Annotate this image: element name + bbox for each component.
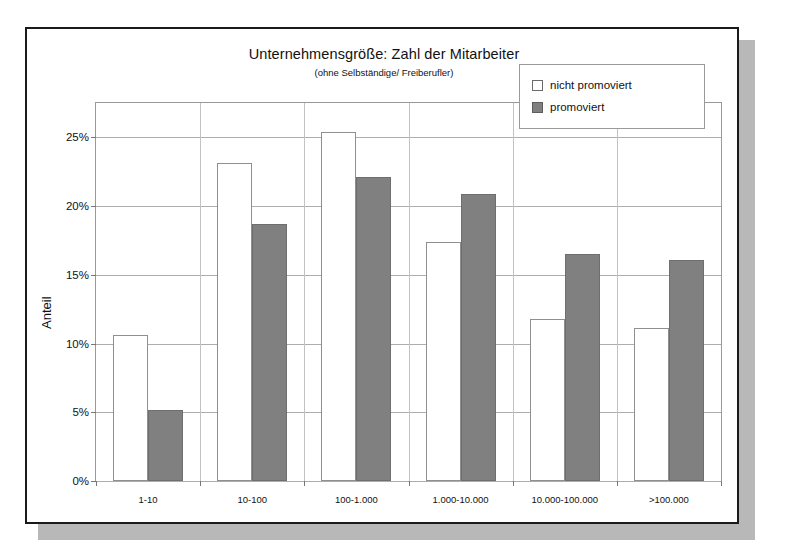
bar-nicht-promoviert <box>113 335 148 481</box>
y-tick-label: 0% <box>72 475 89 487</box>
bar-promoviert <box>148 410 183 481</box>
category-separator <box>617 103 618 481</box>
category-separator <box>304 103 305 481</box>
y-tick-mark <box>91 137 96 138</box>
chart-figure-frame: Unternehmensgröße: Zahl der Mitarbeiter … <box>25 27 739 524</box>
legend-label: nicht promoviert <box>550 79 632 91</box>
x-tick-mark <box>96 481 97 486</box>
plot-area: 0%5%10%15%20%25%1-1010-100100-1.0001.000… <box>95 102 722 482</box>
bar-nicht-promoviert <box>217 163 252 481</box>
legend-item-promoviert[interactable]: promoviert <box>532 96 694 118</box>
bar-promoviert <box>356 177 391 481</box>
bar-promoviert <box>461 194 496 481</box>
y-tick-mark <box>91 344 96 345</box>
y-tick-mark <box>91 206 96 207</box>
category-separator <box>513 103 514 481</box>
x-tick-label: 1.000-10.000 <box>433 494 489 505</box>
bar-promoviert <box>252 224 287 481</box>
y-tick-mark <box>91 412 96 413</box>
x-tick-label: 100-1.000 <box>335 494 378 505</box>
bar-nicht-promoviert <box>634 328 669 481</box>
y-tick-mark <box>91 275 96 276</box>
category-separator <box>409 103 410 481</box>
y-tick-label: 15% <box>66 269 89 281</box>
chart-legend: nicht promoviert promoviert <box>519 64 705 129</box>
x-tick-mark <box>409 481 410 486</box>
y-tick-label: 25% <box>66 131 89 143</box>
bar-promoviert <box>669 260 704 481</box>
x-tick-label: 1-10 <box>139 494 158 505</box>
figure-shadow-bottom <box>38 524 755 540</box>
y-tick-label: 20% <box>66 200 89 212</box>
legend-label: promoviert <box>550 101 604 113</box>
bar-nicht-promoviert <box>530 319 565 481</box>
category-separator <box>200 103 201 481</box>
bar-nicht-promoviert <box>426 242 461 481</box>
y-tick-label: 5% <box>72 406 89 418</box>
x-tick-mark <box>304 481 305 486</box>
legend-swatch-white-square-icon <box>532 80 543 91</box>
x-tick-label: 10-100 <box>237 494 267 505</box>
legend-item-nicht-promoviert[interactable]: nicht promoviert <box>532 74 694 96</box>
chart-title: Unternehmensgröße: Zahl der Mitarbeiter <box>27 46 741 62</box>
x-tick-label: >100.000 <box>649 494 689 505</box>
x-tick-mark <box>513 481 514 486</box>
y-axis-title: Anteil <box>39 296 54 329</box>
x-tick-mark <box>721 481 722 486</box>
figure-shadow-right <box>739 40 755 540</box>
screenshot-root: Unternehmensgröße: Zahl der Mitarbeiter … <box>0 0 808 555</box>
bar-nicht-promoviert <box>321 132 356 481</box>
legend-swatch-gray-square-icon <box>532 102 543 113</box>
x-tick-mark <box>200 481 201 486</box>
y-tick-label: 10% <box>66 338 89 350</box>
bar-promoviert <box>565 254 600 481</box>
x-tick-label: 10.000-100.000 <box>531 494 598 505</box>
x-tick-mark <box>617 481 618 486</box>
